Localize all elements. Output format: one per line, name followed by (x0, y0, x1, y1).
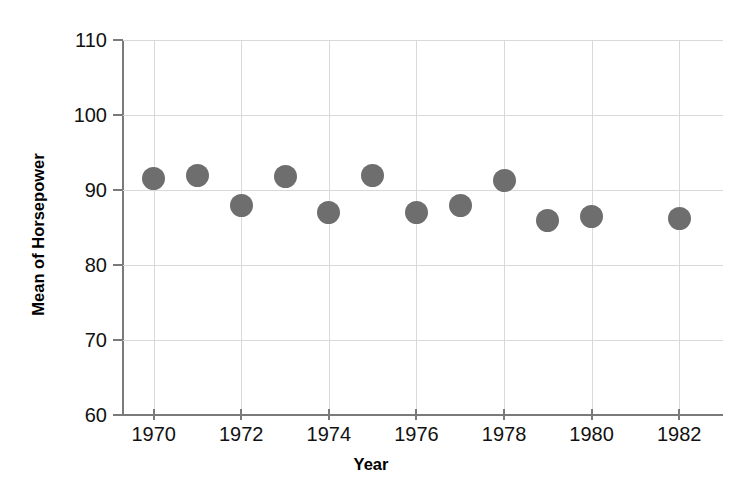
x-tick-mark (328, 409, 330, 420)
plot-area (123, 40, 723, 415)
y-tick-label: 100 (45, 105, 107, 125)
gridline-vertical (241, 40, 242, 415)
y-tick-label: 60 (45, 405, 107, 425)
gridline-horizontal (123, 115, 723, 116)
data-point (536, 209, 559, 232)
x-tick-label: 1974 (289, 424, 369, 444)
gridline-horizontal (123, 40, 723, 41)
y-tick-label: 90 (45, 180, 107, 200)
x-tick-mark (153, 409, 155, 420)
x-tick-mark (503, 409, 505, 420)
gridline-vertical (416, 40, 417, 415)
data-point (230, 194, 253, 217)
data-point (493, 169, 516, 192)
data-point (580, 205, 603, 228)
x-tick-mark (415, 409, 417, 420)
y-tick-mark (113, 114, 123, 116)
gridline-vertical (504, 40, 505, 415)
scatter-chart: Mean of Horsepower 11010090807060 197019… (0, 0, 742, 498)
x-tick-mark (240, 409, 242, 420)
y-axis-title: Mean of Horsepower (29, 135, 48, 335)
data-point (449, 194, 472, 217)
x-tick-mark (591, 409, 593, 420)
x-tick-label: 1970 (114, 424, 194, 444)
data-point (186, 164, 209, 187)
x-axis-title: Year (0, 455, 742, 474)
x-tick-mark (678, 409, 680, 420)
y-tick-label: 110 (45, 30, 107, 50)
y-tick-mark (113, 264, 123, 266)
gridline-horizontal (123, 340, 723, 341)
gridline-horizontal (123, 190, 723, 191)
x-tick-label: 1978 (464, 424, 544, 444)
data-point (668, 207, 691, 230)
x-tick-label: 1972 (201, 424, 281, 444)
gridline-vertical (154, 40, 155, 415)
data-point (405, 201, 428, 224)
gridline-horizontal (123, 265, 723, 266)
x-tick-label: 1982 (639, 424, 719, 444)
y-tick-label: 70 (45, 330, 107, 350)
x-tick-label: 1976 (376, 424, 456, 444)
y-tick-mark (113, 339, 123, 341)
gridline-vertical (329, 40, 330, 415)
y-tick-label: 80 (45, 255, 107, 275)
y-tick-mark (113, 39, 123, 41)
y-tick-mark (113, 414, 123, 416)
x-tick-label: 1980 (552, 424, 632, 444)
data-point (274, 165, 297, 188)
y-tick-mark (113, 189, 123, 191)
